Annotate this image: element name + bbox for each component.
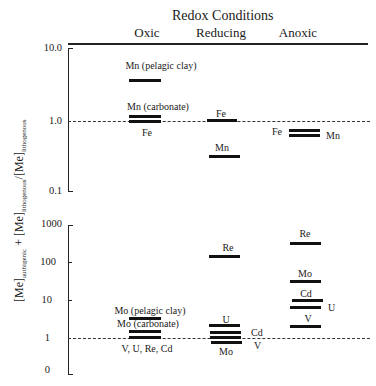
bar-anoxic-mn xyxy=(289,134,320,137)
bottom-tick-0 xyxy=(68,374,73,375)
bar-oxic-vure xyxy=(129,336,161,339)
label-oxic-mn-pelagic: Mn (pelagic clay) xyxy=(125,60,196,71)
header-rule xyxy=(68,43,368,45)
bar-reducing-mn xyxy=(209,155,240,158)
bar-oxic-mn-carbonate xyxy=(129,115,161,118)
bar-anoxic-re xyxy=(290,242,321,245)
label-reducing-cd: Cd xyxy=(251,327,263,338)
label-reducing-re: Re xyxy=(222,242,233,253)
bar-reducing-fe xyxy=(207,119,237,122)
bar-reducing-v xyxy=(210,336,241,339)
label-oxic-mo-carbonate: Mo (carbonate) xyxy=(117,318,179,329)
bar-anoxic-u xyxy=(290,306,321,309)
top-y-axis xyxy=(68,48,69,192)
label-oxic-mn-carbonate: Mn (carbonate) xyxy=(127,101,189,112)
label-anoxic-mn: Mn xyxy=(326,130,340,141)
y-axis-label: [Me]authigenic + [Me]lithogenous/[Me]lit… xyxy=(12,119,28,302)
top-tick-label-10: 10.0 xyxy=(22,42,62,53)
column-header-oxic: Oxic xyxy=(134,25,159,41)
bar-reducing-mo xyxy=(211,341,242,344)
label-reducing-mo: Mo xyxy=(219,346,233,357)
bar-anoxic-cd xyxy=(292,299,323,302)
label-anoxic-mo: Mo xyxy=(298,268,312,279)
bar-oxic-mn-pelagic xyxy=(129,79,161,82)
bar-anoxic-fe xyxy=(289,129,320,132)
label-oxic-fe: Fe xyxy=(142,127,152,138)
bottom-tick-10 xyxy=(68,300,72,301)
top-tick-10 xyxy=(68,48,73,49)
bottom-tick-1000 xyxy=(68,225,73,226)
top-tick-label-1: 1.0 xyxy=(22,115,62,126)
label-oxic-vure: V, U, Re, Cd xyxy=(122,343,173,354)
column-header-reducing: Reducing xyxy=(196,25,246,41)
label-oxic-mo-pelagic: Mo (pelagic clay) xyxy=(114,305,185,316)
bar-reducing-cd xyxy=(210,331,241,334)
label-anoxic-re: Re xyxy=(299,228,310,239)
label-anoxic-u: U xyxy=(328,302,335,313)
bottom-tick-label-1000: 1000 xyxy=(22,218,62,229)
bar-oxic-mo-carbonate xyxy=(129,330,161,333)
top-tick-01 xyxy=(68,191,73,192)
label-anoxic-fe: Fe xyxy=(272,126,282,137)
chart-title: Redox Conditions xyxy=(172,8,274,24)
bottom-tick-100 xyxy=(68,262,72,263)
top-tick-label-01: 0.1 xyxy=(22,185,62,196)
label-reducing-v: V xyxy=(254,340,261,351)
bar-reducing-u xyxy=(209,324,240,327)
bottom-tick-label-100: 100 xyxy=(16,256,56,267)
bar-oxic-fe xyxy=(129,120,161,123)
bottom-tick-label-10: 10 xyxy=(12,294,52,305)
bottom-tick-label-1: 1 xyxy=(10,332,50,343)
bar-anoxic-v xyxy=(290,325,321,328)
label-reducing-mn: Mn xyxy=(215,142,229,153)
bar-reducing-re xyxy=(209,255,240,258)
column-header-anoxic: Anoxic xyxy=(279,25,317,41)
label-reducing-fe: Fe xyxy=(216,108,226,119)
label-anoxic-cd: Cd xyxy=(300,288,312,299)
bar-anoxic-mo xyxy=(290,280,321,283)
bottom-tick-label-0: 0 xyxy=(10,364,50,375)
label-anoxic-v: V xyxy=(304,313,311,324)
